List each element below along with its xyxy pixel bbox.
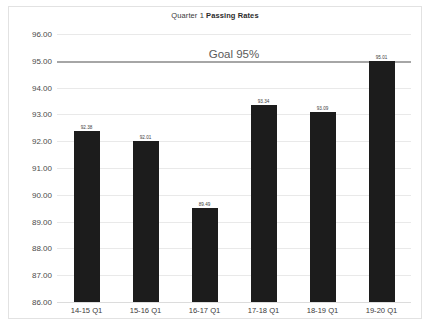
bar-slot: 92.01 <box>116 34 175 302</box>
y-axis-tick-label: 92.00 <box>32 137 52 146</box>
bar-value-label: 89.49 <box>199 202 211 207</box>
bar-series: 92.3892.0189.4993.3493.0995.01 <box>57 34 411 302</box>
y-axis-tick-label: 87.00 <box>32 271 52 280</box>
y-axis-tick-label: 88.00 <box>32 244 52 253</box>
x-axis-tick-label: 15-16 Q1 <box>116 306 175 315</box>
bar-value-label: 93.34 <box>258 99 270 104</box>
y-axis-tick-label: 90.00 <box>32 190 52 199</box>
bar-value-label: 93.09 <box>317 106 329 111</box>
chart-title: Quarter 1 Passing Rates <box>9 11 421 20</box>
bar[interactable]: 95.01 <box>369 61 395 302</box>
bar-slot: 92.38 <box>57 34 116 302</box>
y-axis-tick-label: 96.00 <box>32 30 52 39</box>
y-axis-tick-label: 95.00 <box>32 56 52 65</box>
bar-value-label: 95.01 <box>376 55 388 60</box>
bar-slot: 89.49 <box>175 34 234 302</box>
x-axis-tick-label: 14-15 Q1 <box>57 306 116 315</box>
x-axis-tick-label: 16-17 Q1 <box>175 306 234 315</box>
y-axis-tick-label: 91.00 <box>32 164 52 173</box>
bar-slot: 95.01 <box>352 34 411 302</box>
y-axis-tick-label: 94.00 <box>32 83 52 92</box>
bar[interactable]: 92.38 <box>74 131 100 302</box>
chart-title-prefix: Quarter 1 <box>171 11 206 20</box>
x-axis-tick-label: 17-18 Q1 <box>234 306 293 315</box>
bar[interactable]: 93.34 <box>251 105 277 302</box>
y-axis-tick-label: 93.00 <box>32 110 52 119</box>
y-axis-tick-label: 89.00 <box>32 217 52 226</box>
bar[interactable]: 89.49 <box>192 208 218 302</box>
gridline <box>57 302 411 303</box>
chart-container: Quarter 1 Passing Rates 96.0095.0094.009… <box>8 6 422 319</box>
chart-title-emphasis: Passing Rates <box>206 11 259 20</box>
y-axis-tick-label: 86.00 <box>32 298 52 307</box>
x-axis-tick-label: 18-19 Q1 <box>293 306 352 315</box>
bar[interactable]: 93.09 <box>310 112 336 302</box>
bar[interactable]: 92.01 <box>133 141 159 302</box>
bar-value-label: 92.01 <box>140 135 152 140</box>
bar-slot: 93.34 <box>234 34 293 302</box>
x-axis-tick-label: 19-20 Q1 <box>352 306 411 315</box>
bar-slot: 93.09 <box>293 34 352 302</box>
x-axis-labels: 14-15 Q115-16 Q116-17 Q117-18 Q118-19 Q1… <box>57 306 411 315</box>
bar-value-label: 92.38 <box>81 125 93 130</box>
plot-area: 96.0095.0094.0093.0092.0091.0090.0089.00… <box>57 34 411 302</box>
